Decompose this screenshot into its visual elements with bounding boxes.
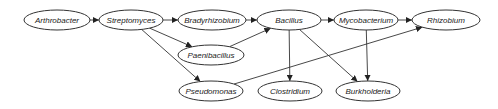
edge-pseudomonas-to-rhizobium	[234, 27, 422, 84]
node-bacillus[interactable]: Bacillus	[257, 10, 321, 30]
node-label: Arthrobacter	[34, 16, 79, 25]
edge-mycobacterium-to-burkholderia	[366, 30, 367, 81]
edge-paenibacillus-to-bacillus	[229, 28, 270, 47]
node-label: Bradyrhizobium	[184, 16, 240, 25]
edge-streptomyces-to-paenibacillus	[150, 28, 193, 47]
node-label: Bacillus	[275, 16, 303, 25]
node-streptomyces[interactable]: Streptomyces	[99, 10, 163, 30]
node-label: Pseudomonas	[185, 87, 236, 96]
node-mycobacterium[interactable]: Mycobacterium	[334, 10, 398, 30]
bacteria-graph-diagram: Arthrobacter Streptomyces Bradyrhizobium…	[0, 0, 498, 109]
node-rhizobium[interactable]: Rhizobium	[412, 10, 480, 30]
edge-bacillus-to-clostridium	[289, 30, 290, 81]
node-label: Paenibacillus	[187, 51, 234, 60]
node-pseudomonas[interactable]: Pseudomonas	[179, 81, 243, 101]
nodes-layer: Arthrobacter Streptomyces Bradyrhizobium…	[24, 10, 480, 101]
node-label: Rhizobium	[427, 16, 465, 25]
node-arthrobacter[interactable]: Arthrobacter	[24, 10, 90, 30]
node-label: Streptomyces	[107, 16, 156, 25]
node-burkholderia[interactable]: Burkholderia	[336, 81, 400, 101]
node-clostridium[interactable]: Clostridium	[258, 81, 322, 101]
node-label: Clostridium	[270, 87, 310, 96]
node-bradyrhizobium[interactable]: Bradyrhizobium	[178, 10, 246, 30]
node-label: Burkholderia	[346, 87, 391, 96]
node-paenibacillus[interactable]: Paenibacillus	[178, 45, 244, 65]
node-label: Mycobacterium	[339, 16, 394, 25]
